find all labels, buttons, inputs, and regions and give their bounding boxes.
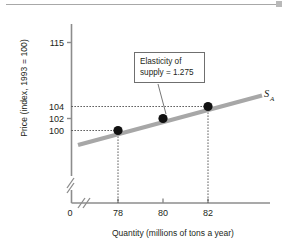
- x-tick-label-0: 0: [67, 208, 72, 218]
- data-point-80-102: [158, 114, 167, 123]
- plot-area: 115 104 102 100 0 78 80 82 S A: [0, 0, 283, 245]
- y-tick-label-104: 104: [49, 102, 64, 112]
- y-tick-label-102: 102: [49, 114, 64, 124]
- y-axis-break-mark: [67, 178, 74, 193]
- x-tick-label-78: 78: [113, 208, 123, 218]
- y-tick-label-115: 115: [50, 38, 64, 48]
- callout-leader-line: [158, 84, 166, 114]
- data-point-82-104: [203, 102, 212, 111]
- supply-elasticity-figure: Price (index, 1993 = 100) Quantity (mill…: [0, 0, 283, 245]
- supply-curve-SA: [78, 96, 262, 146]
- y-tick-label-100: 100: [49, 126, 64, 136]
- elasticity-callout-line-1: Elasticity of: [140, 56, 204, 67]
- elasticity-callout-line-2: supply = 1.275: [140, 67, 204, 78]
- x-tick-label-82: 82: [203, 208, 213, 218]
- data-point-78-100: [113, 126, 122, 135]
- x-tick-label-80: 80: [158, 208, 168, 218]
- supply-curve-label-subscript: A: [269, 95, 275, 103]
- elasticity-callout-box: Elasticity of supply = 1.275: [134, 52, 205, 83]
